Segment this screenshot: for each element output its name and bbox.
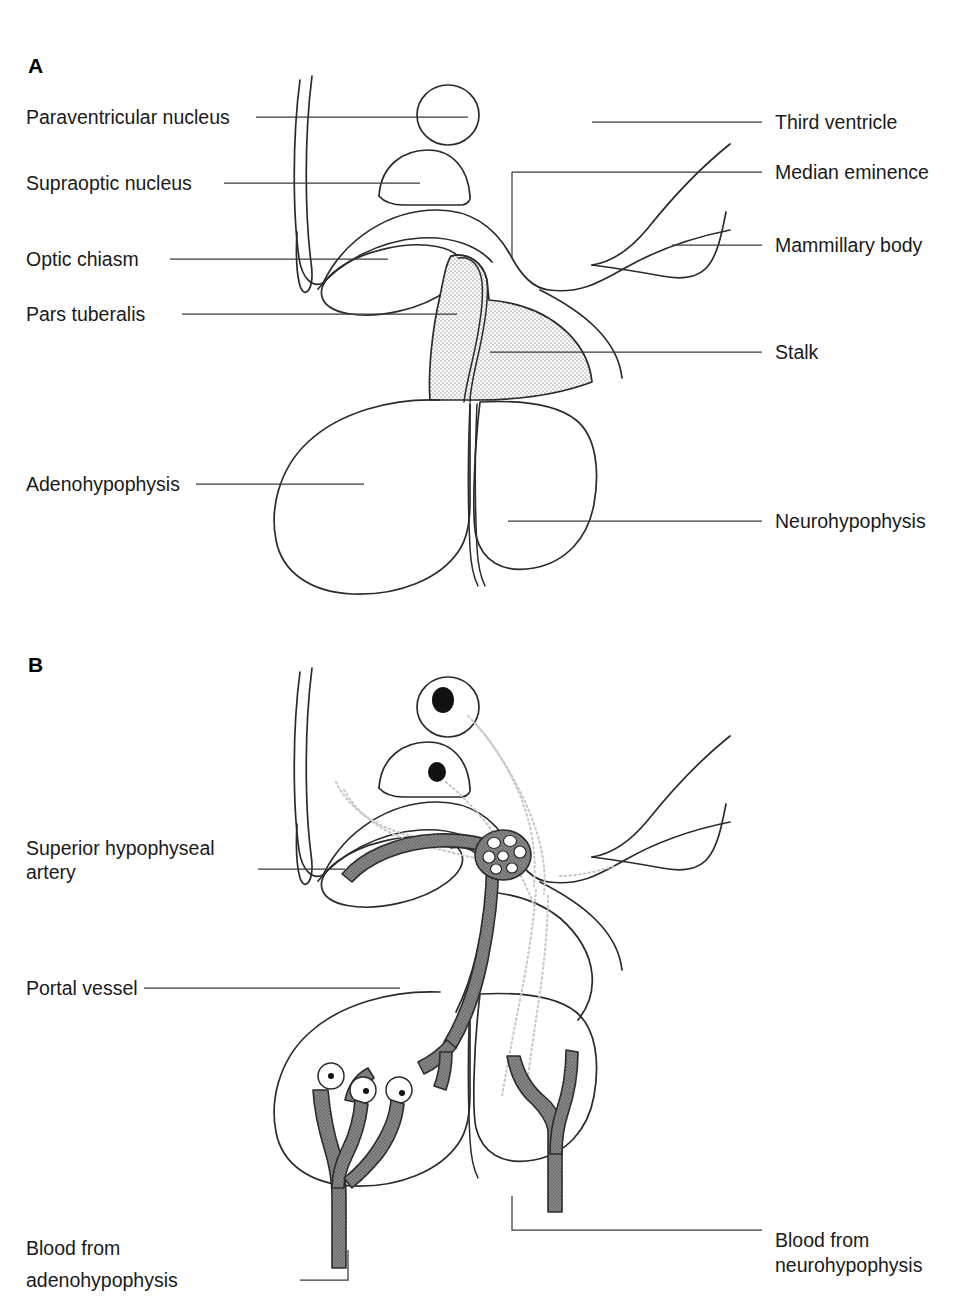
secretory-cell-3 (386, 1077, 412, 1103)
panel-a-letter: A (28, 54, 44, 77)
label-superior-hypophyseal-artery-line2: artery (26, 861, 76, 883)
label-pars-tuberalis: Pars tuberalis (26, 303, 145, 325)
plexus-lumen-5 (498, 851, 509, 861)
label-blood-from-adenohypophysis-line2: adenohypophysis (26, 1269, 178, 1291)
secretory-cell-1-nucleus (328, 1073, 334, 1079)
label-blood-from-adenohypophysis-line1: Blood from (26, 1237, 120, 1259)
label-stalk: Stalk (775, 341, 819, 363)
label-blood-from-neurohypophysis-line1: Blood from (775, 1229, 869, 1251)
figure-background (0, 0, 974, 1308)
label-median-eminence: Median eminence (775, 161, 929, 183)
plexus-lumen-3 (514, 846, 526, 858)
label-adenohypophysis: Adenohypophysis (26, 473, 180, 495)
paraventricular-nucleus-core (432, 687, 454, 713)
plexus-lumen-1 (488, 838, 501, 849)
panel-b-letter: B (28, 653, 44, 676)
label-third-ventricle: Third ventricle (775, 111, 897, 133)
plexus-lumen-6 (491, 864, 502, 874)
secretory-cell-2-nucleus (363, 1088, 369, 1094)
anatomical-figure: A (0, 0, 974, 1308)
label-blood-from-neurohypophysis-line2: neurohypophysis (775, 1254, 923, 1276)
label-superior-hypophyseal-artery-line1: Superior hypophyseal (26, 837, 215, 859)
plexus-lumen-4 (483, 851, 495, 863)
label-portal-vessel: Portal vessel (26, 977, 138, 999)
secretory-cell-2 (350, 1077, 376, 1103)
label-neurohypophysis: Neurohypophysis (775, 510, 926, 532)
label-paraventricular-nucleus: Paraventricular nucleus (26, 106, 230, 128)
label-mammillary-body: Mammillary body (775, 234, 923, 256)
label-supraoptic-nucleus: Supraoptic nucleus (26, 172, 192, 194)
capillary-plexus (475, 830, 531, 880)
label-optic-chiasm: Optic chiasm (26, 248, 139, 270)
supraoptic-nucleus-core (428, 762, 446, 782)
plexus-lumen-2 (504, 836, 517, 847)
secretory-cell-3-nucleus (399, 1090, 405, 1096)
plexus-lumen-7 (507, 863, 518, 873)
